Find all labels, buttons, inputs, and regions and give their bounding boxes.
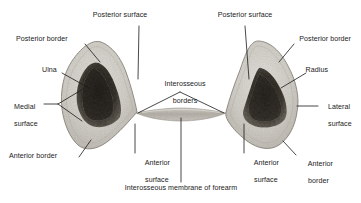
label-medial-surface: Medial surface [6, 95, 38, 137]
label-anterior-border-left: Anterior border [9, 152, 57, 160]
label-anterior-border-right-line2: border [308, 177, 329, 185]
label-interosseous-borders-line2: borders [173, 97, 197, 105]
label-posterior-border-left: Posterior border [16, 35, 68, 43]
label-radius: Radius [306, 66, 328, 74]
label-lateral-surface-line2: surface [328, 120, 352, 128]
label-anterior-surface-right: Anterior surface [246, 151, 279, 193]
label-lateral-surface-line1: Lateral [328, 103, 350, 111]
label-medial-surface-line2: surface [14, 120, 38, 128]
label-ulna: Ulna [42, 66, 57, 74]
leader-posterior-border-right [279, 44, 294, 62]
label-posterior-border-right: Posterior border [299, 35, 351, 43]
label-posterior-surface-right: Posterior surface [199, 11, 291, 19]
label-interosseous-membrane: Interosseous membrane of forearm [101, 184, 261, 192]
label-anterior-border-right: Anterior border [300, 152, 333, 194]
label-interosseous-borders-line1: Interosseous [164, 80, 205, 88]
leader-posterior-surface-left [138, 26, 139, 79]
label-lateral-surface: Lateral surface [320, 95, 352, 137]
leader-anterior-border-right [283, 141, 296, 155]
forearm-cross-section-figure: Posterior surface Posterior border Ulna … [0, 0, 361, 203]
label-anterior-border-right-line1: Anterior [308, 160, 333, 168]
label-medial-surface-line1: Medial [14, 103, 35, 111]
label-anterior-surface-right-line1: Anterior [254, 159, 279, 167]
label-anterior-surface-right-line2: surface [254, 176, 278, 184]
label-anterior-surface-left-line1: Anterior [145, 159, 170, 167]
label-posterior-surface-left: Posterior surface [74, 11, 166, 19]
label-interosseous-borders: Interosseous borders [144, 72, 218, 114]
